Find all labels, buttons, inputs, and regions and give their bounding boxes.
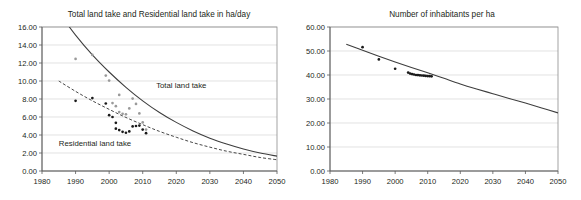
data-point — [145, 128, 148, 131]
data-point — [125, 113, 128, 116]
data-point — [104, 74, 107, 77]
data-point — [135, 125, 138, 128]
y-tick-label: 20.00 — [306, 119, 325, 128]
data-point — [115, 122, 118, 125]
data-point — [361, 46, 364, 49]
x-tick-label: 2000 — [101, 177, 118, 186]
x-tick-label: 1980 — [34, 177, 51, 186]
data-point — [118, 94, 121, 97]
y-tick-label: 2.00 — [22, 149, 37, 158]
data-point — [111, 102, 114, 105]
y-tick-label: 4.00 — [22, 131, 37, 140]
x-tick-label: 2040 — [517, 177, 534, 186]
curves-inhabitants — [346, 44, 558, 113]
x-tick-label: 2030 — [201, 177, 218, 186]
chart-panel-land-take: Total land take and Residential land tak… — [0, 0, 290, 200]
data-point — [145, 132, 148, 135]
data-point — [115, 127, 118, 130]
x-tick-label: 2030 — [484, 177, 501, 186]
data-point — [118, 129, 121, 132]
data-point — [115, 105, 118, 108]
y-tick-label: 0.00 — [22, 167, 37, 176]
y-tick-label: 0.00 — [310, 167, 325, 176]
trend-curve — [346, 44, 558, 113]
data-point — [394, 67, 397, 70]
data-point — [74, 99, 77, 102]
x-tick-label: 1990 — [354, 177, 371, 186]
y-axis-ticks-land-take: 0.002.004.006.008.0010.0012.0014.0016.00 — [18, 23, 42, 176]
y-tick-label: 16.00 — [18, 23, 37, 32]
data-point — [74, 58, 77, 61]
data-point — [131, 125, 134, 128]
data-point — [108, 79, 111, 82]
y-tick-label: 30.00 — [306, 95, 325, 104]
data-point — [104, 102, 107, 105]
data-point — [131, 97, 134, 100]
data-point — [111, 116, 114, 119]
y-tick-label: 14.00 — [18, 41, 37, 50]
data-point — [141, 128, 144, 131]
x-tick-label: 2050 — [269, 177, 286, 186]
x-tick-label: 2010 — [419, 177, 436, 186]
inhabitants-chart: Number of inhabitants per ha 0.0010.0020… — [290, 0, 581, 200]
x-tick-label: 2000 — [387, 177, 404, 186]
y-tick-label: 12.00 — [18, 59, 37, 68]
x-tick-label: 2010 — [134, 177, 151, 186]
data-points-inhabitants — [361, 46, 433, 78]
x-tick-label: 2040 — [235, 177, 252, 186]
series-label: Total land take — [156, 81, 206, 90]
data-point — [378, 58, 381, 61]
x-tick-label: 2050 — [550, 177, 567, 186]
data-point — [121, 113, 124, 116]
x-tick-label: 1980 — [322, 177, 339, 186]
chart-title-inhabitants: Number of inhabitants per ha — [389, 10, 495, 19]
data-point — [108, 114, 111, 117]
x-tick-label: 1990 — [67, 177, 84, 186]
data-point — [141, 121, 144, 124]
x-tick-label: 2020 — [452, 177, 469, 186]
y-axis-ticks-inhabitants: 0.0010.0020.0030.0040.0050.0060.00 — [306, 23, 330, 176]
land-take-chart: Total land take and Residential land tak… — [0, 0, 290, 200]
y-tick-label: 10.00 — [18, 77, 37, 86]
y-tick-label: 40.00 — [306, 71, 325, 80]
data-point — [125, 131, 128, 134]
chart-title-land-take: Total land take and Residential land tak… — [68, 10, 251, 19]
y-tick-label: 10.00 — [306, 143, 325, 152]
data-point — [121, 131, 124, 134]
gridlines-inhabitants — [330, 27, 558, 147]
data-point — [118, 111, 121, 114]
figure-root: Total land take and Residential land tak… — [0, 0, 581, 200]
x-axis-ticks-land-take: 19801990200020102020203020402050 — [34, 171, 286, 186]
y-tick-label: 8.00 — [22, 95, 37, 104]
series-label: Residential land take — [59, 139, 131, 148]
x-axis-ticks-inhabitants: 19801990200020102020203020402050 — [322, 171, 567, 186]
x-tick-label: 2020 — [168, 177, 185, 186]
series-annotations-land-take: Total land takeResidential land take — [59, 81, 207, 148]
data-points-land-take — [74, 54, 147, 135]
data-point — [138, 112, 141, 115]
data-point — [128, 107, 131, 110]
data-point — [135, 103, 138, 106]
data-point — [91, 54, 94, 57]
data-point — [430, 75, 433, 78]
y-tick-label: 60.00 — [306, 23, 325, 32]
chart-panel-inhabitants: Number of inhabitants per ha 0.0010.0020… — [290, 0, 581, 200]
data-point — [128, 130, 131, 133]
y-tick-label: 6.00 — [22, 113, 37, 122]
y-tick-label: 50.00 — [306, 47, 325, 56]
data-point — [138, 124, 141, 127]
data-point — [91, 97, 94, 100]
